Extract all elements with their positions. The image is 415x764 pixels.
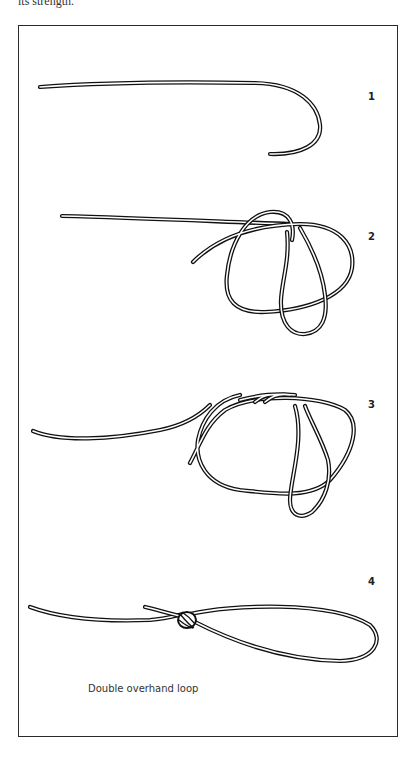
step-label-2: 2: [368, 231, 375, 242]
knot-illustration: [0, 0, 415, 764]
figure-caption: Double overhand loop: [88, 683, 198, 694]
step-label-4: 4: [368, 576, 375, 587]
step-2-rope-illustration: [62, 212, 352, 334]
step-4-rope-illustration: [30, 607, 377, 661]
step-label-3: 3: [368, 399, 375, 410]
step-3-rope-illustration: [33, 394, 354, 516]
step-1-rope-illustration: [40, 82, 320, 154]
step-label-1: 1: [368, 91, 375, 102]
